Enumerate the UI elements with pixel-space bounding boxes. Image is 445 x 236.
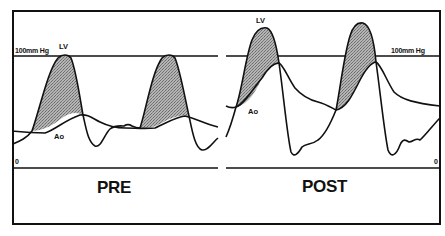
post-shaded-area-1 bbox=[236, 28, 279, 107]
post-100mmhg-label: 100mm Hg bbox=[391, 47, 425, 54]
post-lv-label: LV bbox=[256, 16, 265, 25]
figure-frame bbox=[13, 11, 440, 224]
pressure-waveform-diagram bbox=[0, 0, 445, 236]
pre-100mmhg-label: 100mm Hg bbox=[15, 47, 49, 54]
pre-lv-label: LV bbox=[59, 42, 68, 51]
post-ao-label: Ao bbox=[248, 107, 258, 116]
pre-title: PRE bbox=[97, 178, 131, 198]
pre-shaded-area-1 bbox=[32, 55, 83, 131]
post-zero-label: 0 bbox=[434, 158, 438, 165]
pre-ao-label: Ao bbox=[54, 132, 64, 141]
pre-zero-label: 0 bbox=[15, 158, 19, 165]
post-title: POST bbox=[302, 177, 347, 197]
